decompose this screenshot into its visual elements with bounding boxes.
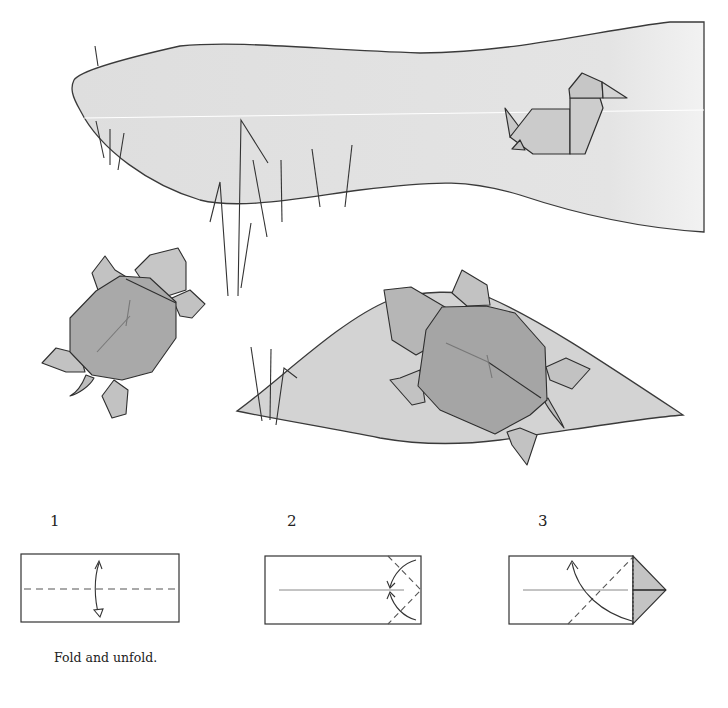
step-1-diagram [20,553,182,625]
origami-scene-illustration [0,0,728,480]
step-2-diagram [264,555,424,627]
origami-turtle-left [42,248,205,418]
step-number-2: 2 [287,512,297,530]
step-number-1: 1 [50,512,60,530]
pond-shape [72,22,704,232]
step-number-3: 3 [538,512,548,530]
step-3-diagram [508,555,672,627]
step-1-caption: Fold and unfold. [54,650,157,665]
